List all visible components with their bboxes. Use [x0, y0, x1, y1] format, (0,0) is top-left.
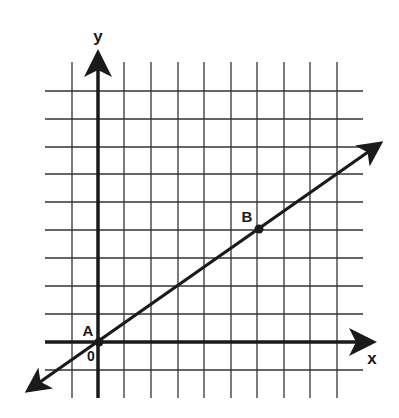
y-axis-label: y: [93, 27, 103, 46]
x-axis-label: x: [367, 349, 377, 368]
axes: [45, 56, 370, 398]
point-b: [255, 225, 264, 234]
point-a: [95, 338, 104, 347]
origin-label: 0: [87, 348, 95, 364]
coordinate-plane: y x 0 A B: [0, 0, 399, 418]
point-b-label: B: [242, 208, 253, 225]
point-a-label: A: [83, 322, 94, 339]
